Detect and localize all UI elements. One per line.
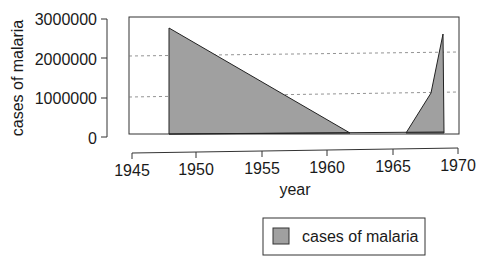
x-tick-1950: 1950 [178, 161, 214, 178]
y-tick-0: 0 [88, 130, 97, 147]
x-tick-1955: 1955 [244, 160, 280, 177]
x-tick-1960: 1960 [309, 159, 345, 176]
y-axis-title: cases of malaria [9, 20, 26, 137]
y-tick-3000000: 3000000 [35, 11, 97, 28]
x-axis-title: year [279, 181, 311, 198]
y-axis: 3000000 2000000 1000000 0 cases of malar… [9, 11, 107, 147]
y-tick-1000000: 1000000 [35, 90, 97, 107]
x-tick-1965: 1965 [375, 158, 411, 175]
legend-label: cases of malaria [302, 228, 419, 245]
legend-swatch [273, 228, 289, 244]
y-tick-2000000: 2000000 [35, 51, 97, 68]
x-axis: 1945 1950 1955 1960 1965 1970 year [114, 148, 476, 198]
legend: cases of malaria [263, 218, 425, 255]
x-tick-1945: 1945 [114, 162, 150, 179]
x-tick-1970: 1970 [440, 157, 476, 174]
chart-canvas: 3000000 2000000 1000000 0 cases of malar… [0, 0, 485, 268]
